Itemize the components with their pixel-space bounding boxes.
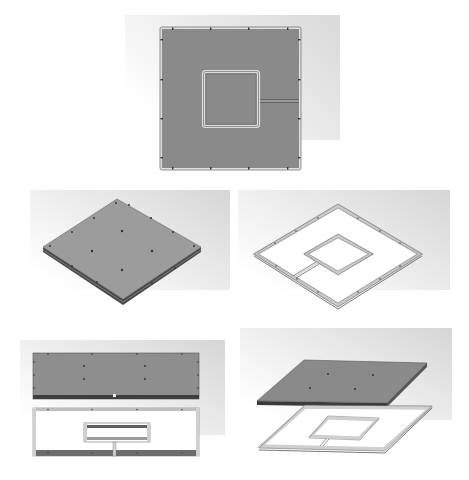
cover-plate	[160, 27, 301, 170]
figure-caption-cropped	[95, 0, 375, 4]
exploded-front-drawing	[15, 335, 230, 465]
exploded-iso-view	[235, 325, 460, 465]
iso-plate-drawing	[20, 185, 235, 310]
cover-plate-front	[33, 353, 199, 399]
connecting-channel	[113, 442, 116, 456]
top-view-drawing	[120, 12, 350, 177]
exploded-front-view	[15, 335, 230, 465]
top-view	[120, 12, 350, 177]
exploded-iso-drawing	[235, 325, 460, 465]
iso-plate-view	[20, 185, 235, 310]
frame-front	[33, 408, 199, 456]
iso-frame-view	[235, 185, 460, 310]
iso-frame-drawing	[235, 185, 460, 310]
inner-slot-frame	[84, 423, 150, 442]
